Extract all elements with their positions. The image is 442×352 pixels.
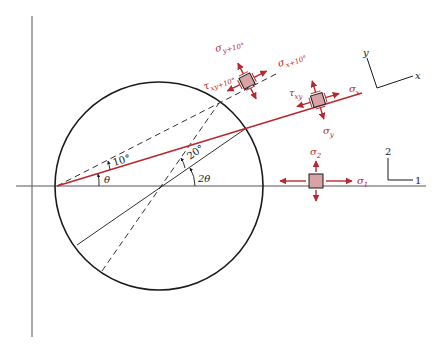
two-theta-arc [190,168,195,186]
ten-deg-arc [108,161,110,170]
principal-stress-element [280,161,352,201]
xy-frame: y x [362,47,421,88]
frame-x-label: x [415,70,421,81]
sigma-y10-label: σy+10° [214,36,246,57]
sigma-2-label: σ2 [310,146,322,160]
diameter-2theta-plus-20 [102,103,219,271]
frame-y-label: y [362,47,369,58]
principal-frame: 2 1 [385,146,421,186]
frame-1-label: 1 [415,175,421,186]
diagram-canvas: θ 10° 2θ 20° σx τxy σy σx+10° σy+10° τxy… [0,0,442,352]
twenty-deg-arc [181,158,185,168]
mohr-circle-diagram: θ 10° 2θ 20° σx τxy σy σx+10° σy+10° τxy… [0,0,442,352]
sigma-x10-label: σx+10° [276,49,308,72]
tau-xy10-label: τxy+10° [202,71,237,95]
sigma-y-label: σy [323,125,335,139]
ten-deg-label: 10° [111,152,131,168]
frame-2-label: 2 [385,146,391,157]
tau-xy-label: τxy [289,87,303,101]
theta-label: θ [104,174,110,185]
theta-arc [98,174,99,186]
two-theta-label: 2θ [197,173,210,184]
sigma-1-label: σ1 [357,175,368,189]
